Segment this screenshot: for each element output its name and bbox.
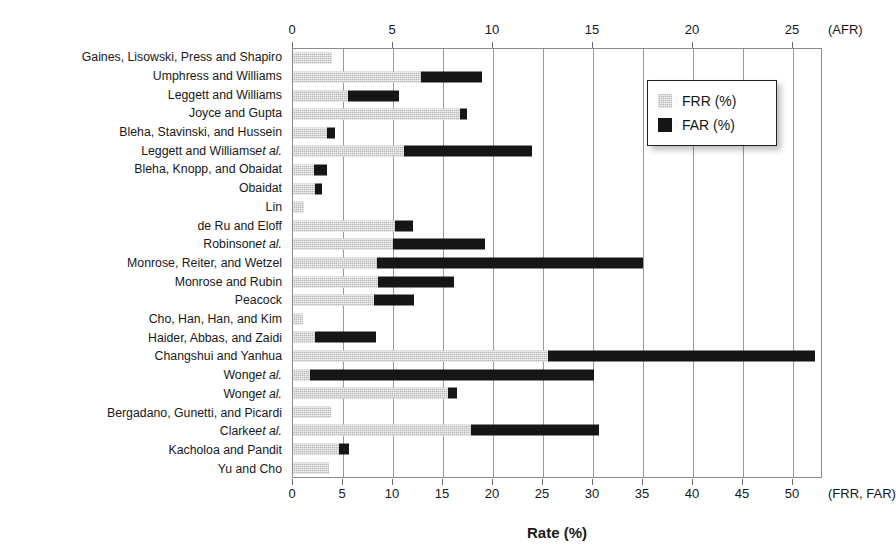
bar-row bbox=[293, 347, 821, 366]
axis-tick bbox=[492, 479, 493, 485]
axis-tick-label: 25 bbox=[535, 486, 549, 501]
bar-frr bbox=[293, 53, 332, 64]
bar-far bbox=[448, 388, 457, 399]
bar-frr bbox=[293, 239, 393, 250]
bar-far bbox=[348, 90, 399, 101]
bar-row bbox=[293, 49, 821, 68]
axis-tick-label: 35 bbox=[635, 486, 649, 501]
axis-tick-label: 20 bbox=[485, 486, 499, 501]
axis-tick-label: 50 bbox=[785, 486, 799, 501]
bar-far bbox=[404, 146, 532, 157]
bar-frr bbox=[293, 295, 374, 306]
axis-tick-label: 10 bbox=[385, 486, 399, 501]
bar-far bbox=[310, 369, 594, 380]
category-label: de Ru and Eloff bbox=[36, 216, 288, 235]
axis-tick-label: 15 bbox=[585, 22, 599, 37]
bar-far bbox=[374, 295, 414, 306]
bar-far bbox=[460, 109, 467, 120]
axis-tick-label: 0 bbox=[288, 486, 295, 501]
bar-far bbox=[395, 220, 413, 231]
category-label: Bergadano, Gunetti, and Picardi bbox=[36, 403, 288, 422]
bar-frr bbox=[293, 202, 304, 213]
bar-frr bbox=[293, 220, 395, 231]
category-label: Peacock bbox=[36, 291, 288, 310]
bar-far bbox=[314, 164, 327, 175]
axis-tick bbox=[642, 479, 643, 485]
category-label: Changshui and Yanhua bbox=[36, 347, 288, 366]
bar-row bbox=[293, 421, 821, 440]
bottom-axis-unit-label: (FRR, FAR) bbox=[828, 486, 896, 501]
axis-tick-label: 25 bbox=[785, 22, 799, 37]
category-label: Leggett and Williams bbox=[36, 85, 288, 104]
bar-frr bbox=[293, 109, 460, 120]
top-axis: 0510152025 bbox=[292, 28, 822, 48]
bar-far bbox=[548, 351, 815, 362]
axis-tick bbox=[342, 479, 343, 485]
category-label: Kacholoa and Pandit bbox=[36, 441, 288, 460]
bar-far bbox=[471, 425, 599, 436]
axis-tick bbox=[442, 479, 443, 485]
bar-far bbox=[315, 183, 322, 194]
bar-row bbox=[293, 440, 821, 459]
legend-label-frr: FRR (%) bbox=[682, 93, 736, 109]
bar-row bbox=[293, 403, 821, 422]
axis-tick bbox=[692, 479, 693, 485]
category-label: Bleha, Stavinski, and Hussein bbox=[36, 123, 288, 142]
axis-tick bbox=[742, 479, 743, 485]
bar-row bbox=[293, 235, 821, 254]
bar-frr bbox=[293, 369, 310, 380]
bar-frr bbox=[293, 406, 331, 417]
category-label: Haider, Abbas, and Zaidi bbox=[36, 329, 288, 348]
legend-swatch-frr-icon bbox=[658, 94, 672, 108]
category-label: Wong et al. bbox=[36, 385, 288, 404]
category-label-list: Gaines, Lisowski, Press and ShapiroUmphr… bbox=[36, 48, 288, 478]
bar-frr bbox=[293, 146, 404, 157]
bar-row bbox=[293, 272, 821, 291]
bar-far bbox=[315, 332, 376, 343]
axis-tick bbox=[392, 479, 393, 485]
bar-frr bbox=[293, 258, 377, 269]
bar-frr bbox=[293, 313, 303, 324]
axis-tick-label: 45 bbox=[735, 486, 749, 501]
category-label: Joyce and Gupta bbox=[36, 104, 288, 123]
axis-tick-label: 20 bbox=[685, 22, 699, 37]
bar-frr bbox=[293, 276, 378, 287]
legend-item: FAR (%) bbox=[658, 113, 766, 137]
bar-row bbox=[293, 179, 821, 198]
bar-frr bbox=[293, 444, 339, 455]
legend-swatch-far-icon bbox=[658, 118, 672, 132]
category-label: Monrose and Rubin bbox=[36, 272, 288, 291]
bar-row bbox=[293, 328, 821, 347]
legend-item: FRR (%) bbox=[658, 89, 766, 113]
axis-tick bbox=[542, 479, 543, 485]
category-label: Bleha, Knopp, and Obaidat bbox=[36, 160, 288, 179]
category-label: Gaines, Lisowski, Press and Shapiro bbox=[36, 48, 288, 67]
axis-tick-label: 10 bbox=[485, 22, 499, 37]
bar-far bbox=[393, 239, 485, 250]
bar-frr bbox=[293, 183, 315, 194]
axis-tick bbox=[292, 479, 293, 485]
category-label: Cho, Han, Han, and Kim bbox=[36, 310, 288, 329]
axis-tick bbox=[792, 479, 793, 485]
category-label: Clarke et al. bbox=[36, 422, 288, 441]
bar-frr bbox=[293, 164, 314, 175]
bar-row bbox=[293, 254, 821, 273]
category-label: Lin bbox=[36, 198, 288, 217]
bar-frr bbox=[293, 462, 329, 473]
category-label: Umphress and Williams bbox=[36, 67, 288, 86]
bar-frr bbox=[293, 71, 421, 82]
bar-frr bbox=[293, 332, 315, 343]
axis-tick-label: 5 bbox=[388, 22, 395, 37]
axis-tick-label: 0 bbox=[288, 22, 295, 37]
axis-tick-label: 15 bbox=[435, 486, 449, 501]
category-label: Wong et al. bbox=[36, 366, 288, 385]
top-axis-unit-label: (AFR) bbox=[828, 22, 863, 37]
bar-far bbox=[339, 444, 349, 455]
bar-row bbox=[293, 310, 821, 329]
axis-tick-label: 5 bbox=[338, 486, 345, 501]
chart-legend: FRR (%) FAR (%) bbox=[647, 80, 777, 146]
category-label: Robinson et al. bbox=[36, 235, 288, 254]
bar-frr bbox=[293, 388, 448, 399]
bar-row bbox=[293, 216, 821, 235]
